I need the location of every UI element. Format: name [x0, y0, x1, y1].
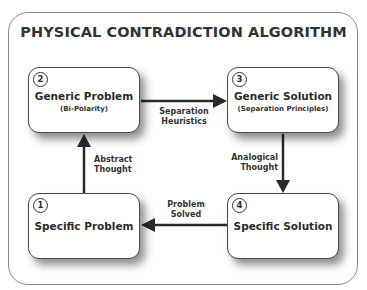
node-specific-problem: 1 Specific Problem: [28, 193, 140, 259]
edge-label-analogical-thought: Analogical Thought: [222, 153, 278, 173]
edge-label-abstract-thought: Abstract Thought: [94, 155, 144, 175]
node-title: Specific Problem: [29, 220, 139, 232]
arrow-right-icon: [141, 94, 227, 108]
step-number-badge: 2: [33, 72, 48, 87]
node-subtitle: (Separation Principles): [228, 105, 338, 113]
arrow-up-icon: [77, 134, 91, 193]
node-generic-problem: 2 Generic Problem (Bi-Polarity): [28, 67, 140, 133]
edge-label-problem-solved: Problem Solved: [158, 200, 214, 220]
node-generic-solution: 3 Generic Solution (Separation Principle…: [227, 67, 339, 133]
step-number-badge: 4: [232, 198, 247, 213]
node-title: Specific Solution: [228, 220, 338, 232]
arrow-down-icon: [276, 134, 290, 193]
step-number-badge: 3: [232, 72, 247, 87]
node-subtitle: (Bi-Polarity): [29, 105, 139, 113]
arrow-left-icon: [141, 218, 227, 232]
node-title: Generic Problem: [29, 90, 139, 102]
node-title: Generic Solution: [228, 90, 338, 102]
step-number-badge: 1: [33, 198, 48, 213]
node-specific-solution: 4 Specific Solution: [227, 193, 339, 259]
edge-label-separation-heuristics: Separation Heuristics: [152, 107, 216, 127]
